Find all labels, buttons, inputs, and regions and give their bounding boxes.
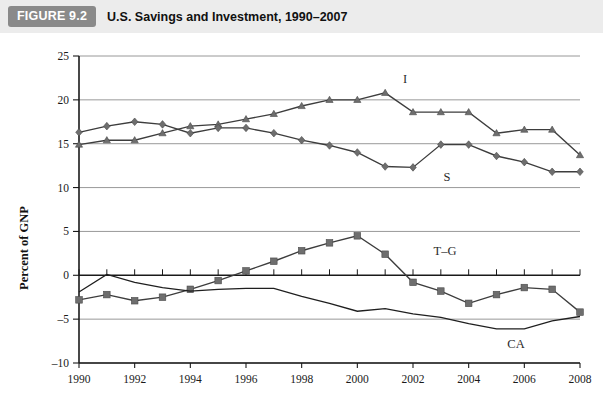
y-tick-label-20: 20 [58,94,70,106]
data-point [577,168,584,176]
series-label-CA: CA [507,337,524,351]
x-tick-label-2006: 2006 [513,373,536,385]
y-axis-title: Percent of GNP [17,206,31,290]
data-point [298,247,305,254]
data-point [271,258,278,265]
data-point [438,288,445,295]
y-tick-label-5: 5 [63,225,69,237]
x-tick-label-1992: 1992 [123,373,146,385]
data-point [187,129,194,137]
data-point [465,300,472,307]
x-tick-label-1994: 1994 [179,373,202,385]
series-label-S: S [444,170,451,184]
data-point [382,163,389,171]
data-point [549,286,556,293]
data-point [382,89,389,95]
data-point [326,240,333,247]
x-tick-label-1996: 1996 [235,373,258,385]
data-point [104,291,111,298]
data-point [159,121,166,129]
data-point [298,136,305,144]
series-S [76,118,584,176]
series-inline-labels-group: IST–GCA [403,72,525,351]
data-point [549,168,556,176]
y-tick-label-25: 25 [58,50,70,62]
data-point [410,279,417,286]
data-point [382,251,389,258]
x-tick-label-2000: 2000 [346,373,369,385]
data-point [465,141,472,149]
data-point [243,124,250,132]
data-point [271,129,278,137]
y-tick-label-10: 10 [58,182,70,194]
data-point [243,268,250,275]
data-point [76,129,83,137]
x-tick-label-1990: 1990 [68,373,91,385]
x-tick-label-2002: 2002 [402,373,425,385]
x-tick-label-1998: 1998 [290,373,313,385]
series-label-I: I [403,72,407,86]
data-point [521,284,528,291]
series-CA [79,274,580,328]
x-tick-label-2008: 2008 [569,373,592,385]
series-line [79,274,580,328]
data-point [493,152,500,160]
savings-investment-line-chart: Percent of GNP –10–50510152025 199019921… [0,33,603,409]
chart-container: Percent of GNP –10–50510152025 199019921… [0,33,603,409]
y-tick-label--10: –10 [51,357,70,369]
data-point [215,277,222,284]
data-point [131,297,138,304]
x-axis-ticks-group: 1990199219941996199820002002200420062008 [68,269,592,385]
data-point [76,297,83,304]
data-point [131,118,138,126]
y-tick-label-0: 0 [63,269,69,281]
y-axis-ticks-group: –10–50510152025 [51,50,79,369]
figure-number-badge: FIGURE 9.2 [8,6,96,27]
series-label-TG: T–G [434,244,457,258]
data-point [577,309,584,316]
x-tick-label-2004: 2004 [457,373,480,385]
data-point [104,122,111,130]
data-series-group [75,89,583,329]
data-point [521,158,528,166]
y-tick-label--5: –5 [57,313,70,325]
y-tick-label-15: 15 [58,138,70,150]
data-point [354,149,361,157]
figure-header: FIGURE 9.2 U.S. Savings and Investment, … [0,0,603,33]
figure-title: U.S. Savings and Investment, 1990–2007 [107,10,347,24]
data-point [493,291,500,298]
data-point [159,294,166,301]
data-point [326,142,333,150]
data-point [354,233,361,240]
